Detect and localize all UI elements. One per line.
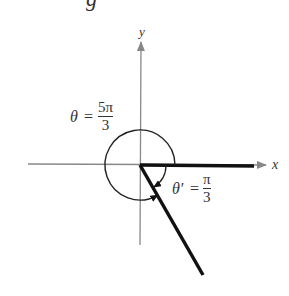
x-axis-label: x	[272, 157, 278, 173]
angle-denominator: 3	[102, 118, 110, 133]
angle-equals: =	[84, 108, 93, 126]
reference-angle-numerator: π	[203, 172, 211, 187]
top-fragment: g	[86, 0, 97, 12]
reference-angle-denominator: 3	[203, 190, 211, 205]
y-axis-label: y	[139, 24, 145, 40]
reference-angle-arc	[154, 165, 166, 187]
initial-side	[140, 165, 254, 166]
angle-symbol: θ	[70, 108, 78, 126]
angle-diagram	[0, 0, 289, 296]
angle-numerator: 5π	[98, 100, 113, 115]
reference-angle-symbol: θ′	[172, 180, 183, 198]
reference-angle-equals: =	[190, 180, 199, 198]
y-axis	[140, 42, 141, 245]
